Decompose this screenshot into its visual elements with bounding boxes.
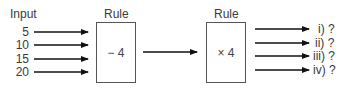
input-value-1: 5 bbox=[5, 26, 29, 38]
output-label-4: iv) ? bbox=[313, 64, 336, 76]
rule-1-label: Rule bbox=[104, 8, 129, 20]
rule-1-box: − 4 bbox=[96, 22, 136, 83]
rule-2-label: Rule bbox=[214, 8, 239, 20]
rule-2-box: × 4 bbox=[206, 22, 246, 83]
input-label: Input bbox=[10, 8, 37, 20]
output-label-1: i) ? bbox=[318, 23, 335, 35]
output-label-3: iii) ? bbox=[313, 50, 335, 62]
input-value-3: 15 bbox=[5, 53, 29, 65]
output-label-2: ii) ? bbox=[315, 37, 334, 49]
rule-1-operation: − 4 bbox=[97, 46, 135, 60]
input-value-2: 10 bbox=[5, 39, 29, 51]
input-value-4: 20 bbox=[5, 66, 29, 78]
rule-2-operation: × 4 bbox=[207, 46, 245, 60]
arrows-layer bbox=[0, 0, 347, 89]
